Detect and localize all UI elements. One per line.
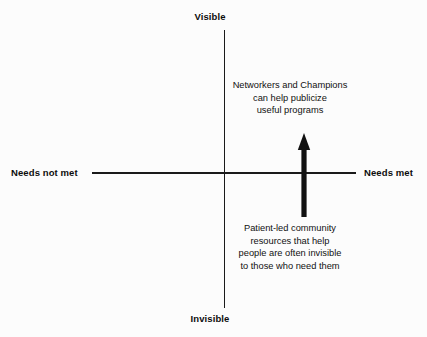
annotation-lower-right-line-1: Patient-led community bbox=[213, 222, 367, 235]
annotation-lower-right: Patient-led community resources that hel… bbox=[213, 222, 367, 272]
axis-label-needs-not-met: Needs not met bbox=[11, 167, 78, 178]
axis-label-visible: Visible bbox=[0, 11, 427, 22]
annotation-upper-right-line-1: Networkers and Champions bbox=[222, 79, 358, 92]
annotation-upper-right: Networkers and Champions can help public… bbox=[222, 79, 358, 117]
annotation-lower-right-line-3: people are often invisible bbox=[213, 247, 367, 260]
annotation-lower-right-line-2: resources that help bbox=[213, 235, 367, 248]
upward-arrow-icon bbox=[295, 133, 313, 217]
annotation-lower-right-line-4: to those who need them bbox=[213, 260, 367, 273]
axis-label-needs-met: Needs met bbox=[364, 167, 413, 178]
annotation-upper-right-line-2: can help publicize bbox=[222, 92, 358, 105]
axis-label-invisible: Invisible bbox=[0, 313, 427, 324]
annotation-upper-right-line-3: useful programs bbox=[222, 104, 358, 117]
quadrant-diagram: Visible Invisible Needs not met Needs me… bbox=[0, 0, 427, 337]
